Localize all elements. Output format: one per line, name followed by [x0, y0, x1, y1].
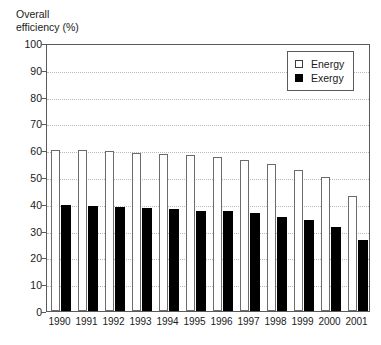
bar-energy-1997 [240, 160, 250, 311]
legend-swatch-exergy-icon [295, 74, 303, 82]
bar-energy-1990 [51, 150, 61, 311]
x-axis-tick-label: 2000 [316, 316, 344, 327]
bar-exergy-1994 [169, 209, 179, 311]
y-axis-title: Overall efficiency (%) [16, 8, 79, 34]
chart-figure: Overall efficiency (%) 01020304050607080… [0, 0, 381, 345]
bar-exergy-1991 [88, 206, 98, 311]
y-axis-tick-label: 100 [16, 39, 42, 50]
y-axis-tick-label: 10 [16, 280, 42, 291]
legend-item-energy: Energy [295, 57, 344, 71]
bar-exergy-1998 [277, 217, 287, 311]
x-axis-tick-label: 1990 [46, 316, 74, 327]
bar-exergy-1993 [142, 208, 152, 311]
y-axis-tick-label: 0 [16, 307, 42, 318]
bar-exergy-1992 [115, 207, 125, 311]
bar-energy-1999 [294, 170, 304, 312]
x-axis-tick-label: 2001 [343, 316, 371, 327]
bar-energy-1998 [267, 164, 277, 311]
bar-exergy-2001 [358, 240, 368, 311]
legend-swatch-energy-icon [295, 60, 303, 68]
bar-energy-1992 [105, 151, 115, 311]
bar-energy-1991 [78, 150, 88, 311]
bar-exergy-1990 [61, 205, 71, 311]
x-axis-tick-label: 1994 [154, 316, 182, 327]
y-axis-tick-mark [41, 312, 46, 313]
y-axis-tick-label: 70 [16, 119, 42, 130]
x-axis-tick-label: 1992 [100, 316, 128, 327]
y-axis-tick-label: 60 [16, 146, 42, 157]
y-axis-tick-label: 40 [16, 200, 42, 211]
chart-legend: Energy Exergy [287, 51, 354, 91]
y-axis-tick-label: 50 [16, 173, 42, 184]
bar-energy-1994 [159, 154, 169, 311]
bar-exergy-1997 [250, 213, 260, 311]
bar-exergy-1995 [196, 211, 206, 312]
x-axis-tick-label: 1996 [208, 316, 236, 327]
x-axis-tick-label: 1998 [262, 316, 290, 327]
x-axis-tick-label: 1997 [235, 316, 263, 327]
legend-item-exergy: Exergy [295, 71, 344, 85]
y-axis-tick-label: 20 [16, 253, 42, 264]
y-axis-tick-label: 90 [16, 66, 42, 77]
y-axis-tick-label: 80 [16, 93, 42, 104]
bar-energy-1995 [186, 155, 196, 311]
y-axis-tick-label: 30 [16, 227, 42, 238]
legend-label-energy: Energy [311, 59, 344, 70]
bar-energy-1996 [213, 157, 223, 311]
bar-energy-1993 [132, 153, 142, 311]
x-axis-tick-label: 1991 [73, 316, 101, 327]
x-axis-tick-label: 1993 [127, 316, 155, 327]
bar-exergy-2000 [331, 227, 341, 311]
bar-energy-2001 [348, 196, 358, 311]
x-axis-tick-label: 1999 [289, 316, 317, 327]
bar-energy-2000 [321, 177, 331, 311]
legend-label-exergy: Exergy [311, 73, 344, 84]
bar-exergy-1999 [304, 220, 314, 311]
x-axis-tick-label: 1995 [181, 316, 209, 327]
bar-exergy-1996 [223, 211, 233, 311]
